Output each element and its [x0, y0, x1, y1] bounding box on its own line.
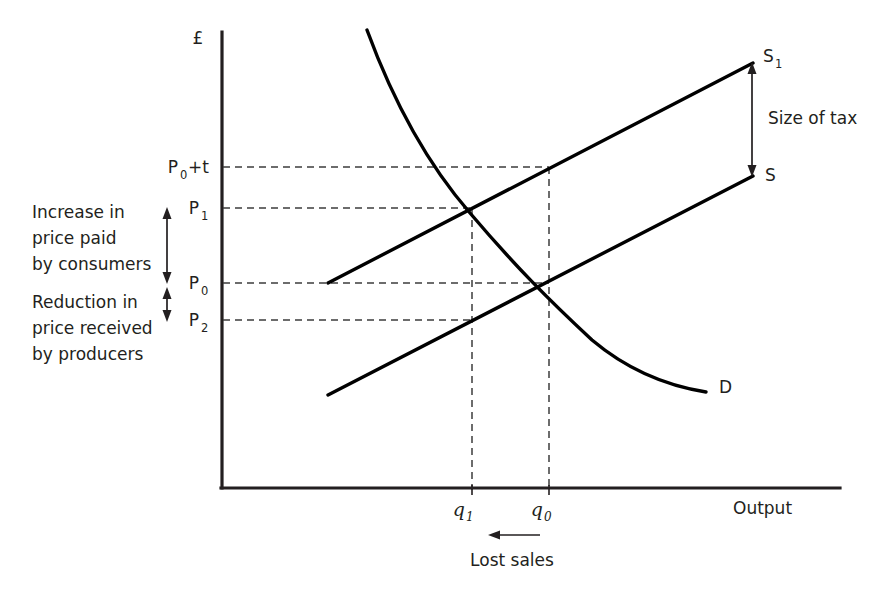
- supply-taxed-label-subscript: 1: [775, 57, 782, 71]
- supply-original-curve: [328, 176, 753, 395]
- price-label-p2-subscript: 2: [201, 321, 208, 335]
- increase-price-line-2: price paid: [32, 228, 116, 248]
- lost-sales-label: Lost sales: [470, 550, 554, 570]
- increase-price-line-3: by consumers: [32, 254, 151, 274]
- price-label-p0-plus-t-suffix: +t: [188, 157, 209, 177]
- axis-labels-group: £ Output: [193, 28, 793, 518]
- size-of-tax-arrowhead-down: [748, 165, 757, 177]
- reduction-price-line-2: price received: [32, 318, 153, 338]
- increase-price-line-1: Increase in: [32, 202, 125, 222]
- demand-label: D: [719, 377, 732, 397]
- quantity-label-q0: q 0: [531, 498, 552, 524]
- quantity-label-q0-subscript: 0: [544, 510, 552, 524]
- supply-demand-tax-diagram: S 1 S D £ Output P 0 +t P 1 P: [0, 0, 877, 590]
- price-label-p0-plus-t-subscript: 0: [180, 168, 187, 182]
- quantity-label-q1-subscript: 1: [466, 510, 474, 524]
- price-label-p0-subscript: 0: [201, 284, 208, 298]
- lost-sales-annotation: Lost sales: [470, 531, 554, 571]
- reduction-price-arrowhead-up: [163, 287, 172, 299]
- price-label-p2: P 2: [189, 310, 209, 335]
- increase-in-price-paid-annotation: Increase in price paid by consumers: [32, 202, 172, 284]
- price-label-p1-subscript: 1: [201, 209, 208, 223]
- guide-lines-group: [223, 167, 549, 490]
- price-label-p0-base: P: [189, 273, 199, 293]
- quantity-axis-labels-group: q 1 q 0: [453, 498, 552, 524]
- price-label-p0-plus-t-base: P: [168, 157, 178, 177]
- supply-original-label: S: [765, 165, 776, 185]
- diagram-canvas: S 1 S D £ Output P 0 +t P 1 P: [0, 0, 877, 590]
- reduction-price-line-3: by producers: [32, 344, 143, 364]
- size-of-tax-label: Size of tax: [768, 108, 857, 128]
- price-axis-labels-group: P 0 +t P 1 P 0 P 2: [168, 157, 210, 335]
- quantity-label-q1: q 1: [453, 498, 474, 524]
- x-axis-label: Output: [733, 498, 792, 518]
- price-label-p0-plus-t: P 0 +t: [168, 157, 210, 182]
- lost-sales-arrowhead-left: [488, 531, 500, 540]
- increase-price-arrowhead-up: [163, 207, 172, 219]
- price-label-p2-base: P: [189, 310, 199, 330]
- price-label-p1: P 1: [189, 198, 209, 223]
- quantity-label-q1-base: q: [453, 498, 465, 520]
- reduction-price-line-1: Reduction in: [32, 292, 138, 312]
- axes-group: [221, 32, 840, 488]
- supply-taxed-label: S: [763, 46, 774, 66]
- reduction-price-arrowhead-down: [163, 310, 172, 322]
- y-axis-label: £: [193, 28, 204, 48]
- demand-curve: [367, 30, 706, 392]
- quantity-label-q0-base: q: [531, 498, 543, 520]
- increase-price-arrowhead-down: [163, 272, 172, 284]
- price-label-p1-base: P: [189, 198, 199, 218]
- curve-labels-group: S 1 S D: [719, 46, 782, 397]
- supply-taxed-curve: [328, 63, 753, 283]
- price-label-p0: P 0: [189, 273, 209, 298]
- curves-group: [328, 30, 753, 395]
- size-of-tax-annotation: Size of tax: [748, 62, 858, 177]
- reduction-in-price-received-annotation: Reduction in price received by producers: [32, 287, 172, 364]
